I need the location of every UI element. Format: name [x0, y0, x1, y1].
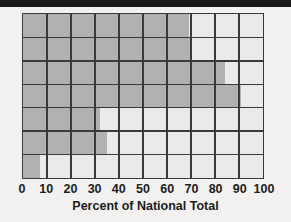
gridline-horizontal: [23, 84, 263, 86]
gridline-horizontal: [23, 154, 263, 156]
x-tick-label: 40: [112, 181, 126, 197]
x-tick-label: 70: [184, 181, 198, 197]
x-axis-title: Percent of National Total: [0, 199, 291, 213]
x-tick-label: 100: [254, 181, 275, 197]
gridline-horizontal: [23, 60, 263, 62]
x-tick-label: 90: [233, 181, 247, 197]
x-tick-label: 30: [88, 181, 102, 197]
gridline-horizontal: [23, 130, 263, 132]
x-tick-label: 20: [63, 181, 77, 197]
x-tick-label: 50: [136, 181, 150, 197]
x-axis-tick-labels: 0102030405060708090100: [0, 181, 291, 197]
x-tick-label: 60: [160, 181, 174, 197]
x-tick-label: 0: [19, 181, 26, 197]
x-tick-label: 80: [209, 181, 223, 197]
bar-chart-figure: 0102030405060708090100 Percent of Nation…: [0, 7, 291, 222]
gridline-horizontal: [23, 37, 263, 39]
gridlines: [23, 14, 263, 178]
page-rule-top: [0, 0, 291, 7]
x-tick-label: 10: [39, 181, 53, 197]
plot-area: [22, 13, 264, 179]
gridline-horizontal: [23, 107, 263, 109]
